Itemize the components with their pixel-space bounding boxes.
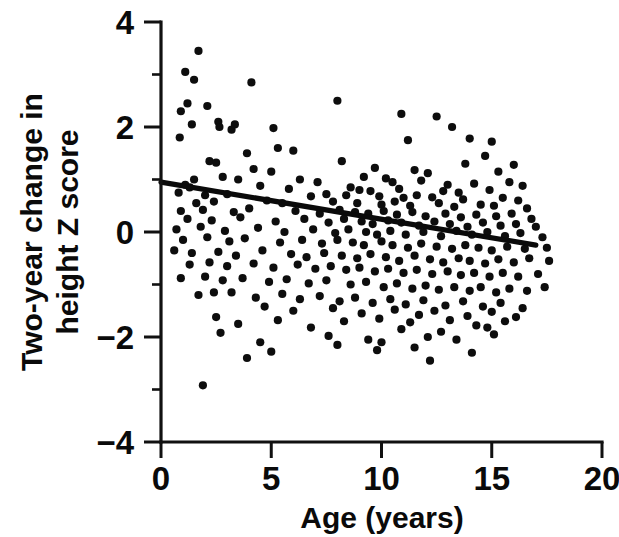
scatter-point: [197, 223, 205, 231]
scatter-point: [395, 185, 403, 193]
scatter-point: [543, 244, 551, 252]
scatter-point: [466, 287, 474, 295]
scatter-point: [232, 252, 240, 260]
scatter-point: [329, 197, 337, 205]
scatter-point: [380, 207, 388, 215]
scatter-point: [327, 262, 335, 270]
scatter-point: [459, 297, 467, 305]
scatter-point: [353, 254, 361, 262]
scatter-point: [231, 120, 239, 128]
scatter-point: [483, 323, 491, 331]
chart-canvas: 05101520 −4−2024 Age (years) Two-year ch…: [0, 0, 619, 537]
scatter-point: [417, 239, 425, 247]
scatter-point: [318, 239, 326, 247]
scatter-point: [340, 317, 348, 325]
scatter-point: [426, 357, 434, 365]
scatter-point: [472, 211, 480, 219]
scatter-point: [192, 199, 200, 207]
scatter-point: [470, 269, 478, 277]
scatter-point: [450, 203, 458, 211]
scatter-point: [177, 207, 185, 215]
scatter-point: [203, 233, 211, 241]
scatter-point: [474, 244, 482, 252]
scatter-point: [294, 260, 302, 268]
scatter-point: [216, 329, 224, 337]
scatter-point: [380, 283, 388, 291]
y-axis-major-ticks: [144, 22, 161, 442]
axes-layer: [144, 22, 602, 458]
scatter-point: [344, 225, 352, 233]
scatter-point: [203, 102, 211, 110]
scatter-point: [433, 112, 441, 120]
scatter-point: [322, 190, 330, 198]
scatter-point: [362, 228, 370, 236]
scatter-point: [313, 178, 321, 186]
scatter-point: [399, 269, 407, 277]
scatter-point: [415, 311, 423, 319]
scatter-point: [194, 291, 202, 299]
scatter-point: [366, 187, 374, 195]
scatter-point: [267, 168, 275, 176]
scatter-point: [519, 182, 527, 190]
scatter-point: [448, 123, 456, 131]
scatter-point: [481, 259, 489, 267]
scatter-point: [320, 249, 328, 257]
scatter-point: [305, 279, 313, 287]
scatter-point: [402, 231, 410, 239]
scatter-point: [439, 187, 447, 195]
scatter-point: [373, 231, 381, 239]
scatter-point: [183, 215, 191, 223]
scatter-point: [541, 283, 549, 291]
y-axis-title-line1: Two-year change in: [15, 93, 48, 371]
scatter-point: [424, 333, 432, 341]
scatter-point: [245, 204, 253, 212]
scatter-point: [302, 253, 310, 261]
scatter-point: [188, 120, 196, 128]
scatter-point: [413, 191, 421, 199]
y-tick-label: 0: [116, 214, 134, 251]
scatter-point: [234, 320, 242, 328]
scatter-point: [283, 275, 291, 283]
scatter-point: [386, 295, 394, 303]
scatter-point: [221, 227, 229, 235]
scatter-point: [201, 273, 209, 281]
scatter-point: [441, 210, 449, 218]
scatter-point: [408, 208, 416, 216]
scatter-point: [205, 258, 213, 266]
scatter-point: [496, 222, 504, 230]
scatter-point: [355, 264, 363, 272]
scatter-point: [404, 244, 412, 252]
scatter-point: [457, 213, 465, 221]
scatter-point: [479, 302, 487, 310]
scatter-point: [296, 295, 304, 303]
scatter-point: [492, 212, 500, 220]
scatter-point: [316, 292, 324, 300]
scatter-point: [186, 260, 194, 268]
scatter-point: [446, 316, 454, 324]
scatter-point: [324, 218, 332, 226]
scatter-point: [494, 255, 502, 263]
scatter-point: [470, 180, 478, 188]
scatter-point: [243, 354, 251, 362]
scatter-point: [477, 201, 485, 209]
scatter-point: [388, 178, 396, 186]
y-tick-label: −2: [96, 319, 134, 356]
scatter-point: [298, 236, 306, 244]
scatter-point: [250, 259, 258, 267]
scatter-point: [176, 133, 184, 141]
scatter-point: [488, 246, 496, 254]
scatter-point: [488, 308, 496, 316]
scatter-point: [194, 47, 202, 55]
scatter-point: [336, 297, 344, 305]
scatter-point: [461, 241, 469, 249]
scatter-point: [208, 216, 216, 224]
scatter-point: [395, 257, 403, 265]
scatter-point: [377, 237, 385, 245]
scatter-point: [441, 301, 449, 309]
scatter-point: [212, 159, 220, 167]
scatter-point: [422, 281, 430, 289]
scatter-point: [448, 245, 456, 253]
scatter-point: [391, 306, 399, 314]
scatter-point: [433, 243, 441, 251]
scatter-point: [532, 223, 540, 231]
